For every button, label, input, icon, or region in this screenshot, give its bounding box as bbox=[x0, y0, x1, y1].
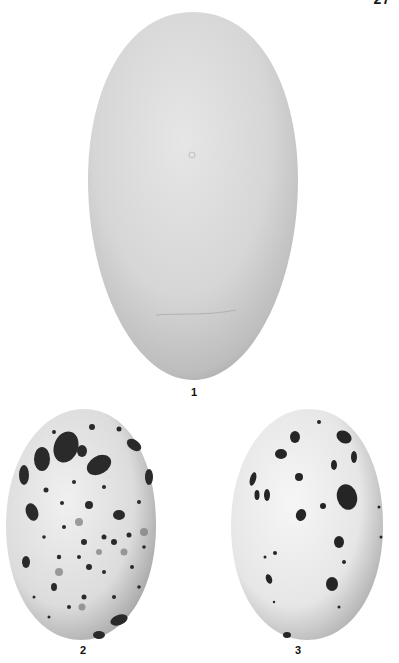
page-number: 27 bbox=[373, 0, 391, 7]
egg-3-label: 3 bbox=[288, 644, 308, 656]
egg-3-image bbox=[229, 407, 385, 642]
egg-2-label: 2 bbox=[73, 644, 93, 656]
egg-2-image bbox=[4, 407, 158, 642]
egg-1-label: 1 bbox=[184, 386, 204, 398]
egg-1-image bbox=[86, 10, 300, 382]
egg-plate: 27 1 bbox=[0, 0, 399, 663]
